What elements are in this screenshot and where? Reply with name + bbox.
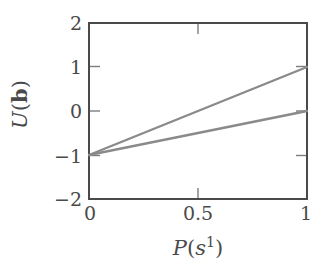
plot-svg bbox=[88, 22, 308, 200]
y-axis-title-paren-open: ( bbox=[8, 103, 32, 111]
x-tick-label: 1 bbox=[300, 204, 312, 223]
x-axis-tick-labels: 0 0.5 1 bbox=[88, 202, 308, 230]
plot-area bbox=[88, 22, 308, 200]
y-axis-title: U(b) bbox=[7, 50, 32, 160]
x-tick-label: 0.5 bbox=[183, 204, 213, 223]
y-axis-title-paren-close: ) bbox=[8, 80, 32, 88]
data-line-lower bbox=[89, 111, 307, 155]
data-line-upper bbox=[89, 67, 307, 155]
x-axis-title-superscript: 1 bbox=[206, 234, 215, 250]
x-axis-title-symbol: P bbox=[173, 236, 187, 260]
y-tick-marks bbox=[90, 67, 100, 156]
chart-figure: 2 1 0 −1 −2 0 0.5 1 U(b) P(s1) bbox=[0, 0, 331, 280]
y-axis-title-vector: b bbox=[7, 88, 32, 103]
x-axis-title-paren-close: ) bbox=[215, 236, 223, 260]
x-axis-title-paren-open: ( bbox=[187, 236, 195, 260]
y-tick-label: −1 bbox=[54, 146, 82, 165]
y-tick-label: 2 bbox=[70, 14, 82, 33]
y-tick-label: 0 bbox=[70, 102, 82, 121]
y-tick-label: −2 bbox=[54, 190, 82, 209]
x-axis-title-var: s bbox=[195, 236, 206, 260]
y-axis-tick-labels: 2 1 0 −1 −2 bbox=[52, 22, 82, 200]
y-tick-label: 1 bbox=[70, 57, 82, 76]
x-tick-label: 0 bbox=[84, 204, 96, 223]
y-axis-title-symbol: U bbox=[8, 111, 32, 129]
x-axis-title: P(s1) bbox=[88, 234, 308, 260]
